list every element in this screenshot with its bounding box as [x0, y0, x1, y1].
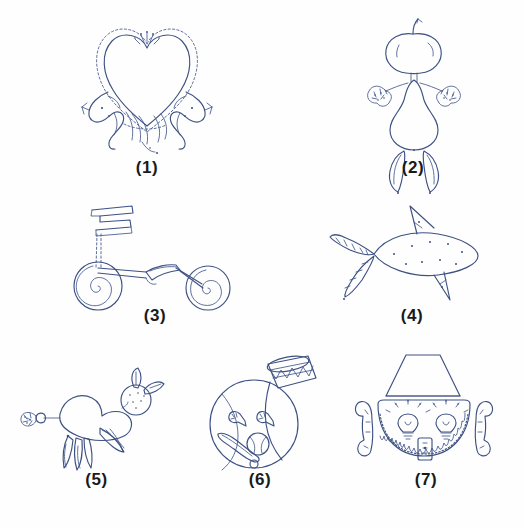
figure-panel-6: (6): [196, 352, 324, 508]
panel-5-artwork: [14, 368, 179, 478]
figure-panel-1: (1): [62, 12, 232, 190]
panel-4-artwork: [322, 192, 502, 312]
panel-1-artwork: [62, 12, 232, 162]
panel-7-label: (7): [340, 470, 512, 490]
panel-3-artwork: [60, 192, 250, 312]
panel-2-label: (2): [338, 158, 488, 178]
figure-panel-3: (3): [60, 192, 250, 342]
panel-7-artwork: [340, 352, 512, 478]
figure-panel-5: (5): [14, 368, 179, 508]
figure-sheet: (1): [0, 0, 524, 528]
panel-6-label: (6): [196, 470, 324, 490]
figure-panel-2: (2): [338, 12, 488, 190]
figure-panel-7: (7): [340, 352, 512, 508]
panel-1-label: (1): [62, 158, 232, 178]
panel-6-artwork: [196, 352, 324, 478]
figure-panel-4: (4): [322, 192, 502, 342]
panel-3-label: (3): [60, 306, 250, 326]
panel-2-artwork: [338, 12, 488, 162]
panel-5-label: (5): [14, 470, 179, 490]
panel-4-label: (4): [322, 306, 502, 326]
